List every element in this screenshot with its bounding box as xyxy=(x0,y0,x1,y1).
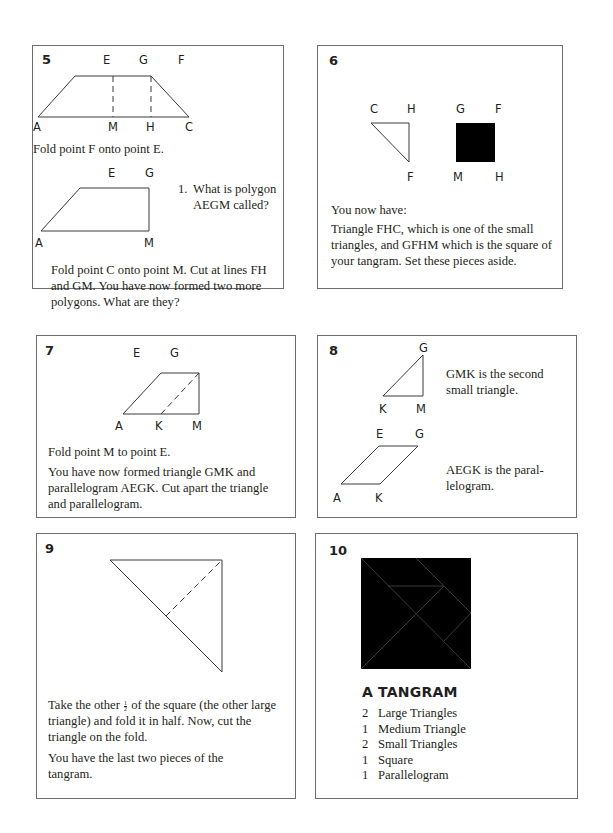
triangle-and-square-diagram xyxy=(318,46,564,176)
step-6-panel: 6 C H G F F M H You now have: Triangle F… xyxy=(317,45,563,289)
step-9-panel: 9 Take the other 12 of the square (the o… xyxy=(36,533,296,799)
label-K: K xyxy=(375,493,383,505)
question-number: 1. xyxy=(178,181,187,197)
question-text: AEGM called? xyxy=(193,197,269,213)
result-text: You now have: xyxy=(331,202,407,218)
result-text: Triangle FHC, which is one of the small … xyxy=(331,221,559,269)
label-K: K xyxy=(379,404,387,416)
label-M: M xyxy=(144,238,154,250)
label-E: E xyxy=(376,429,383,441)
triangle-description: GMK is the second small triangle. xyxy=(446,366,566,398)
label-F: F xyxy=(407,172,414,184)
step-5-panel: 5 E G F A M H C Fold point F onto point … xyxy=(32,45,284,289)
label-H: H xyxy=(495,172,504,184)
label-G: G xyxy=(415,429,424,441)
trapezoid-aegm-diagram xyxy=(33,46,285,246)
parallelogram-description: lelogram. xyxy=(446,478,494,494)
step-7-panel: 7 E G A K M Fold point M to point E. You… xyxy=(36,335,296,518)
instruction-text-pre: Take the other xyxy=(48,698,120,712)
fraction-one-half: 12 xyxy=(124,701,127,712)
piece-item: 1Parallelogram xyxy=(362,768,466,784)
instruction-text: Fold point M to point E. xyxy=(48,444,170,460)
parallelogram-description: AEGK is the paral- xyxy=(446,462,544,478)
question-text: What is polygon xyxy=(193,181,276,197)
tangram-title: A TANGRAM xyxy=(362,684,458,700)
instruction-text: Fold point C onto point M. Cut at lines … xyxy=(51,262,283,310)
label-M: M xyxy=(416,404,426,416)
label-A: A xyxy=(115,421,123,433)
piece-item: 1Medium Triangle xyxy=(362,722,466,738)
label-K: K xyxy=(155,421,163,433)
piece-item: 2Large Triangles xyxy=(362,706,466,722)
label-M: M xyxy=(192,421,202,433)
tangram-square-diagram xyxy=(316,534,579,684)
tangram-pieces-list: 2Large Triangles 1Medium Triangle 2Small… xyxy=(362,706,466,784)
instruction-text: You have now formed triangle GMK and par… xyxy=(48,464,288,512)
instruction-text: Take the other 12 of the square (the oth… xyxy=(48,697,292,745)
label-M: M xyxy=(453,172,463,184)
result-text: You have the last two pieces of the tang… xyxy=(48,750,248,782)
label-A: A xyxy=(333,493,341,505)
step-8-panel: 8 G K M GMK is the second small triangle… xyxy=(317,335,577,518)
piece-item: 1Square xyxy=(362,753,466,769)
piece-item: 2Small Triangles xyxy=(362,737,466,753)
step-10-panel: 10 A TANGRAM 2Large Triangles 1Medium Tr… xyxy=(315,533,578,799)
label-A: A xyxy=(35,238,43,250)
trapezoid-fold-diagram xyxy=(37,336,297,436)
